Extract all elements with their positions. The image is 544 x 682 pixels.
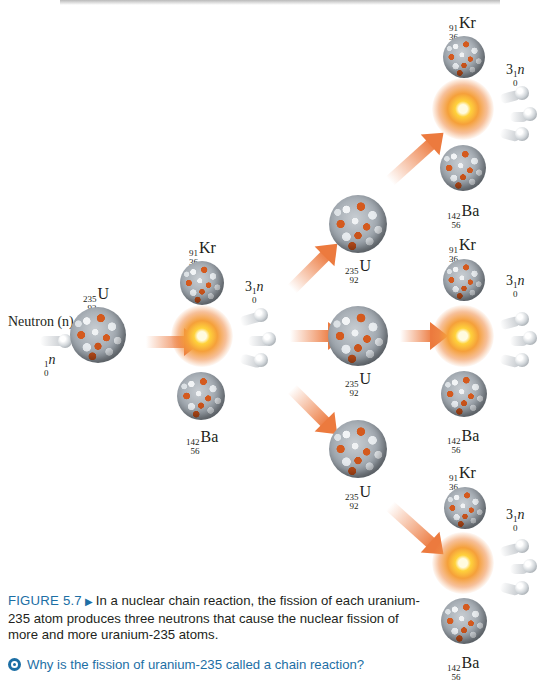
- neutron-icon: [254, 353, 268, 367]
- krypton-nucleus-icon: [444, 487, 486, 529]
- neutron-icon: [523, 331, 537, 345]
- neutron-icon: [515, 539, 529, 553]
- uranium-label: 23592U: [345, 371, 371, 398]
- caption-pointer-icon: ▶: [85, 596, 93, 607]
- barium-nucleus-icon: [441, 598, 487, 644]
- uranium-label: 23592U: [345, 484, 371, 511]
- uranium-nucleus-icon: [70, 307, 126, 363]
- neutron-icon: [523, 559, 537, 573]
- caption-question: Why is the fission of uranium-235 called…: [8, 657, 364, 672]
- three-neutrons-label: 310n: [506, 62, 525, 88]
- uranium-nucleus-icon: [329, 195, 387, 253]
- neutron-icon: [523, 107, 537, 121]
- uranium-nucleus-icon: [328, 306, 388, 366]
- uranium-label: 23592U: [345, 258, 371, 285]
- neutron-icon: [515, 127, 529, 141]
- barium-label: 14256Ba: [186, 429, 218, 456]
- barium-label: 14256Ba: [447, 203, 479, 230]
- neutron-icon: [254, 308, 268, 322]
- fission-flash-icon: [432, 78, 494, 140]
- neutron-icon: [515, 353, 529, 367]
- neutron-icon: [262, 332, 276, 346]
- fission-flash-icon: [432, 532, 494, 594]
- neutron-icon: [515, 312, 529, 326]
- neutron-label: Neutron (n): [8, 314, 74, 330]
- krypton-nucleus-icon: [180, 261, 224, 305]
- krypton-nucleus-icon: [443, 259, 485, 301]
- barium-nucleus-icon: [441, 371, 487, 417]
- fission-flash-icon: [171, 305, 233, 367]
- clipped-body-text: (clipped line of body text from precedin…: [60, 0, 500, 5]
- barium-nucleus-icon: [177, 372, 225, 420]
- arrow-up-right-icon: [383, 125, 451, 190]
- figure-caption: FIGURE 5.7▶In a nuclear chain reaction, …: [8, 593, 428, 644]
- uranium-nucleus-icon: [329, 420, 387, 478]
- figure-number: FIGURE 5.7: [8, 593, 82, 608]
- barium-label: 14256Ba: [447, 655, 479, 682]
- three-neutrons-label: 310n: [245, 279, 264, 305]
- fission-flash-icon: [432, 305, 494, 367]
- neutron-icon: [515, 581, 529, 595]
- neutron-icon: [515, 86, 529, 100]
- barium-nucleus-icon: [440, 145, 486, 191]
- neutron-symbol: 10n: [44, 352, 56, 378]
- question-icon: [8, 658, 21, 671]
- krypton-nucleus-icon: [443, 36, 485, 78]
- barium-label: 14256Ba: [447, 428, 479, 455]
- three-neutrons-label: 310n: [506, 273, 525, 299]
- arrow-up-right-icon: [284, 236, 345, 297]
- three-neutrons-label: 310n: [506, 507, 525, 533]
